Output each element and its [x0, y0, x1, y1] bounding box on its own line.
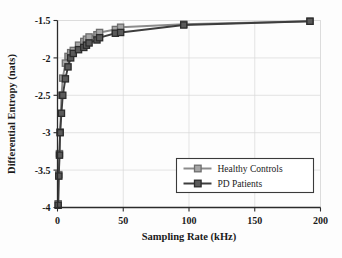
chart-canvas: -1.5-2-2.5-3-3.5-4050100150200 Sampling …: [0, 0, 342, 258]
data-point-marker: [118, 29, 124, 35]
legend-marker-swatch: [195, 165, 202, 172]
data-point-marker: [56, 173, 62, 179]
y-axis-title: Differential Entropy (nats): [6, 54, 18, 174]
data-point-marker: [86, 34, 92, 40]
x-tick-label: 100: [182, 215, 197, 226]
data-point-marker: [307, 18, 313, 24]
legend-marker-swatch: [195, 180, 202, 187]
x-tick-label: 50: [118, 215, 128, 226]
x-tick-label: 0: [55, 215, 60, 226]
data-point-marker: [86, 40, 92, 46]
data-point-marker: [62, 76, 68, 82]
data-point-marker: [60, 92, 66, 98]
legend-label: PD Patients: [218, 179, 263, 189]
chart-figure: -1.5-2-2.5-3-3.5-4050100150200 Sampling …: [0, 0, 342, 258]
legend-label: Healthy Controls: [218, 164, 283, 174]
y-tick-label: -2.5: [35, 90, 51, 101]
x-axis-title: Sampling Rate (kHz): [142, 231, 237, 243]
y-tick-label: -1.5: [35, 15, 51, 26]
y-tick-label: -4: [42, 202, 50, 213]
y-tick-label: -2: [42, 53, 50, 64]
data-point-marker: [58, 110, 64, 116]
y-tick-label: -3.5: [35, 165, 51, 176]
x-tick-label: 200: [313, 215, 328, 226]
chart-legend[interactable]: Healthy ControlsPD Patients: [177, 159, 314, 193]
data-point-marker: [96, 35, 102, 41]
data-point-marker: [65, 64, 71, 70]
y-tick-label: -3: [42, 127, 50, 138]
data-point-marker: [181, 22, 187, 28]
x-tick-label: 150: [247, 215, 262, 226]
